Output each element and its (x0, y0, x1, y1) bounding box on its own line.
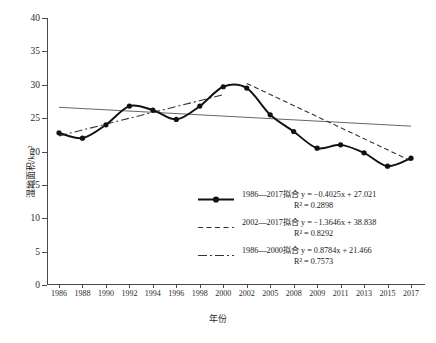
data-point (291, 129, 296, 134)
x-tick-label: 2000 (215, 289, 231, 298)
x-tick-label: 2005 (262, 289, 278, 298)
legend-sample-dash-dot (196, 251, 236, 260)
data-series-line (59, 85, 411, 167)
y-tick-label: 5 (35, 247, 40, 257)
x-tick-label: 2017 (403, 289, 419, 298)
x-tick-label: 2002 (239, 289, 255, 298)
legend-r2-early: R² = 0.7573 (242, 257, 436, 266)
y-tick-label: 20 (31, 147, 41, 157)
data-point (361, 150, 366, 155)
x-tick-label: 1990 (98, 289, 114, 298)
data-point (244, 85, 249, 90)
data-point (80, 136, 85, 141)
x-tick-label: 2011 (333, 289, 349, 298)
y-tick-label: 10 (31, 213, 41, 223)
x-tick-label: 2009 (309, 289, 325, 298)
y-tick-label: 40 (31, 13, 41, 23)
data-point (197, 104, 202, 109)
trend-line-early (59, 95, 223, 136)
x-tick-label: 2015 (380, 289, 396, 298)
x-tick-label: 2013 (356, 289, 372, 298)
legend-r2-full: R² = 0.2898 (242, 201, 436, 210)
y-tick-label: 25 (31, 113, 41, 123)
trend-line-late (247, 83, 411, 160)
y-tick (42, 285, 47, 286)
data-point-markers (56, 84, 413, 169)
data-point (127, 104, 132, 109)
legend-row-early: 1986—2000拟合 y = 0.8784x + 21.466 R² = 0.… (196, 246, 428, 274)
legend-r2-late: R² = 0.8292 (242, 229, 436, 238)
legend-label-late: 2002—2017拟合 y = −1.3646x + 38.838 (242, 218, 376, 227)
y-tick-label: 0 (35, 280, 40, 290)
data-point (315, 146, 320, 151)
x-tick-label: 1996 (168, 289, 184, 298)
y-tick-label: 30 (31, 80, 41, 90)
data-point (268, 112, 273, 117)
data-point (221, 84, 226, 89)
x-tick-label: 1998 (192, 289, 208, 298)
legend-row-late: 2002—2017拟合 y = −1.3646x + 38.838 R² = 0… (196, 218, 428, 246)
x-tick-label: 1992 (121, 289, 137, 298)
x-tick-label: 1988 (74, 289, 90, 298)
x-tick-label: 1986 (51, 289, 67, 298)
y-tick-label: 35 (31, 46, 41, 56)
data-point (174, 117, 179, 122)
legend-label-full: 1986—2017拟合 y = −0.4025x + 27.021 (242, 190, 376, 199)
data-point (338, 142, 343, 147)
x-axis-title: 年份 (0, 312, 436, 325)
wetland-area-chart: 湿地面积/km² 年份 0510152025303540 19861988199… (0, 0, 436, 343)
legend: 1986—2017拟合 y = −0.4025x + 27.021 R² = 0… (196, 190, 428, 274)
trend-line-full (59, 107, 411, 126)
legend-label-early: 1986—2000拟合 y = 0.8784x + 21.466 (242, 246, 372, 255)
x-tick-label: 2008 (286, 289, 302, 298)
legend-sample-dashed (196, 223, 236, 232)
data-point (56, 130, 61, 135)
data-point (408, 156, 413, 161)
legend-row-full: 1986—2017拟合 y = −0.4025x + 27.021 R² = 0… (196, 190, 428, 218)
data-point (150, 108, 155, 113)
legend-sample-solid-marker (196, 195, 236, 204)
data-point (103, 122, 108, 127)
y-tick-label: 15 (31, 180, 41, 190)
x-tick-label: 1994 (145, 289, 161, 298)
data-point (385, 164, 390, 169)
